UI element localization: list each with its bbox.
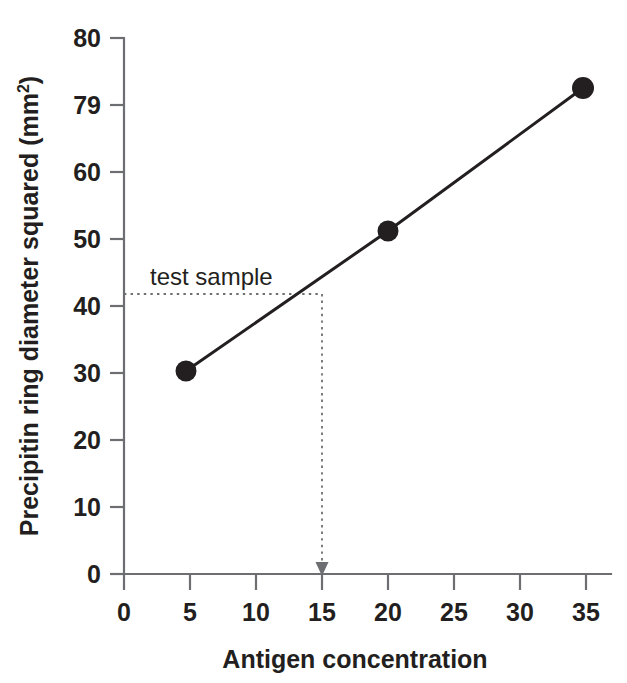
x-axis-title: Antigen concentration xyxy=(222,645,487,673)
data-point-marker xyxy=(378,221,399,242)
x-tick-label-15: 15 xyxy=(308,598,336,626)
y-axis-title: Precipitin ring diameter squared (mm2) xyxy=(15,76,43,536)
y-tick-label-20: 20 xyxy=(73,426,101,454)
chart-plot-area: 80 79 60 50 40 30 20 10 0 0 5 10 15 20 2… xyxy=(0,0,627,683)
y-tick-label-79: 79 xyxy=(73,91,101,119)
y-tick-label-40: 40 xyxy=(73,292,101,320)
y-tick-label-30: 30 xyxy=(73,359,101,387)
y-axis-title-superscript: 2 xyxy=(15,84,32,93)
x-tick-label-0: 0 xyxy=(117,598,131,626)
x-tick-label-20: 20 xyxy=(374,598,402,626)
x-tick-label-35: 35 xyxy=(572,598,600,626)
x-tick-label-30: 30 xyxy=(506,598,534,626)
y-axis-title-suffix: ) xyxy=(15,76,43,84)
y-tick-label-0: 0 xyxy=(87,560,101,588)
y-tick-label-80: 80 xyxy=(73,24,101,52)
y-axis-ticks xyxy=(110,38,124,574)
x-tick-label-10: 10 xyxy=(242,598,270,626)
data-point-marker xyxy=(176,361,197,382)
data-point-marker xyxy=(572,77,594,99)
y-tick-label-50: 50 xyxy=(73,225,101,253)
y-tick-label-10: 10 xyxy=(73,493,101,521)
x-tick-label-25: 25 xyxy=(440,598,468,626)
test-sample-label: test sample xyxy=(150,263,273,290)
y-tick-label-60: 60 xyxy=(73,158,101,186)
y-axis-title-main: Precipitin ring diameter squared (mm xyxy=(15,93,43,536)
chart-figure: 80 79 60 50 40 30 20 10 0 0 5 10 15 20 2… xyxy=(0,0,627,683)
x-tick-label-5: 5 xyxy=(183,598,197,626)
x-axis-ticks xyxy=(124,574,586,590)
